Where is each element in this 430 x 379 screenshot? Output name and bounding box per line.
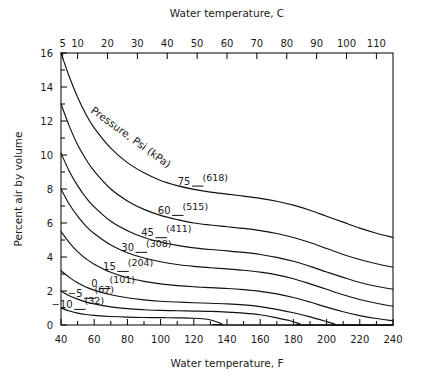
curve-label-psi--10: −10 (52, 299, 73, 310)
curve-label-psi-60: 60 (158, 205, 171, 216)
x-top-tick-label: 20 (101, 38, 114, 49)
x-tick-label: 240 (383, 334, 402, 345)
x-tick-label: 180 (284, 334, 303, 345)
x-tick-label: 140 (217, 334, 236, 345)
x-top-tick-label: 10 (71, 38, 84, 49)
y-tick-label: 8 (47, 184, 53, 195)
curve-label-kpa-15: (204) (128, 257, 154, 268)
x-tick-label: 40 (55, 334, 68, 345)
curve-label-psi--5: −5 (68, 288, 83, 299)
y-tick-label: 16 (40, 48, 53, 59)
air-solubility-chart: Water temperature, C Water temperature, … (0, 0, 430, 379)
curve-label-kpa-30: (308) (146, 238, 172, 249)
x-top-tick-label: 100 (337, 38, 356, 49)
y-tick-label: 6 (47, 218, 53, 229)
curve-label-kpa--10: (32) (85, 295, 105, 306)
y-tick-label: 4 (47, 252, 53, 263)
curve-label-45: 45(411) (141, 223, 191, 238)
x-top-tick-label: 90 (310, 38, 323, 49)
y-tick-label: 14 (40, 82, 53, 93)
x-tick-label: 160 (251, 334, 270, 345)
curve-label-kpa-75: (618) (202, 172, 228, 183)
x-top-tick-label: 60 (221, 38, 234, 49)
left-axis-title: Percent air by volume (12, 132, 24, 247)
curve-label-psi-15: 15 (103, 261, 116, 272)
x-top-tick-label: 40 (161, 38, 174, 49)
x-top-tick-label: 70 (251, 38, 264, 49)
chart-canvas: Water temperature, C Water temperature, … (0, 0, 430, 379)
curve-label-kpa-45: (411) (166, 223, 192, 234)
x-top-tick-label: 50 (191, 38, 204, 49)
curve-label-75: 75(618) (178, 172, 228, 187)
curve-label-psi-75: 75 (178, 176, 191, 187)
curve-label-psi-30: 30 (121, 242, 134, 253)
curve-label-psi-45: 45 (141, 227, 154, 238)
x-tick-label: 120 (184, 334, 203, 345)
y-tick-label: 12 (40, 116, 53, 127)
curve-label-kpa--5: (67) (95, 284, 115, 295)
x-tick-label: 200 (317, 334, 336, 345)
curve-label-kpa-60: (515) (183, 201, 209, 212)
y-tick-label: 0 (47, 320, 53, 331)
bottom-axis-title: Water temperature, F (170, 357, 283, 369)
curve-label-30: 30(308) (121, 238, 171, 253)
y-tick-label: 10 (40, 150, 53, 161)
x-tick-label: 60 (88, 334, 101, 345)
y-tick-label: 2 (47, 286, 53, 297)
x-tick-label: 220 (350, 334, 369, 345)
x-top-tick-label: 80 (280, 38, 293, 49)
curve-labels: 75(618)60(515)45(411)30(308)15(204)0(101… (52, 172, 229, 310)
curve-label-15: 15(204) (103, 257, 153, 272)
top-axis-title: Water temperature, C (170, 7, 284, 19)
x-tick-label: 100 (151, 334, 170, 345)
curve-label-60: 60(515) (158, 201, 208, 216)
x-tick-label: 80 (121, 334, 134, 345)
x-top-tick-label: 110 (367, 38, 386, 49)
curve-75 (61, 53, 393, 237)
x-top-tick-label: 30 (131, 38, 144, 49)
x-top-tick-label: 5 (59, 38, 65, 49)
